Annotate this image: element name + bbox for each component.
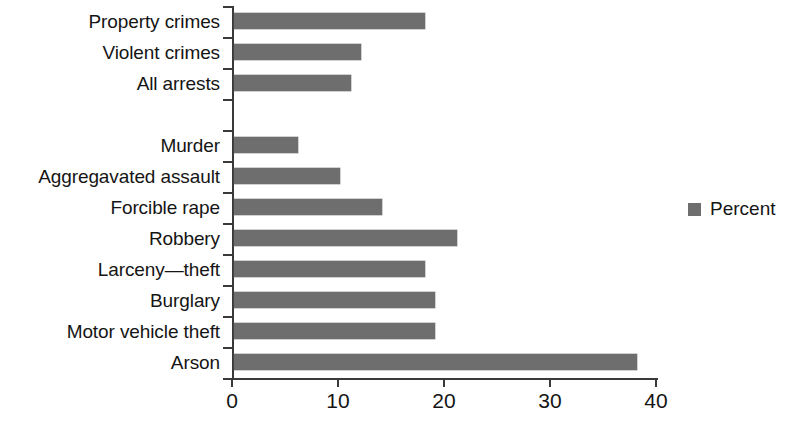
bar-all-arrests <box>234 75 351 91</box>
bar-property-crimes <box>234 13 425 29</box>
legend-swatch-icon <box>688 203 701 216</box>
category-label: Arson <box>171 347 220 378</box>
category-label: All arrests <box>137 68 220 99</box>
bar-burglary <box>234 292 435 308</box>
bar-larceny-theft <box>234 261 425 277</box>
x-axis-tick-label: 0 <box>226 389 238 413</box>
category-label: Aggregavated assault <box>38 161 220 192</box>
x-axis-line <box>232 378 658 380</box>
bar-violent-crimes <box>234 44 361 60</box>
category-label: Burglary <box>150 285 220 316</box>
category-label: Larceny—theft <box>98 254 220 285</box>
x-axis-tick-label: 10 <box>326 389 349 413</box>
category-label: Violent crimes <box>102 37 220 68</box>
bar-forcible-rape <box>234 199 382 215</box>
x-axis-tick <box>231 378 233 387</box>
bar-aggregavated-assault <box>234 168 340 184</box>
x-axis-tick <box>337 378 339 387</box>
bars-container <box>234 6 794 378</box>
x-axis-tick <box>443 378 445 387</box>
bar-chart: Property crimes Violent crimes All arres… <box>0 0 795 428</box>
category-labels: Property crimes Violent crimes All arres… <box>0 6 226 378</box>
legend-label: Percent <box>710 198 775 220</box>
category-label: Motor vehicle theft <box>67 316 220 347</box>
bar-robbery <box>234 230 457 246</box>
category-label: Forcible rape <box>110 192 220 223</box>
x-axis-tick <box>549 378 551 387</box>
x-axis-tick-label: 30 <box>538 389 561 413</box>
x-axis-tick-label: 20 <box>432 389 455 413</box>
bar-arson <box>234 354 637 370</box>
category-label: Robbery <box>149 223 220 254</box>
category-label: Property crimes <box>88 6 220 37</box>
bar-motor-vehicle-theft <box>234 323 435 339</box>
x-axis-tick-label: 40 <box>644 389 667 413</box>
x-axis-tick <box>655 378 657 387</box>
category-label: Murder <box>160 130 220 161</box>
legend: Percent <box>688 198 775 220</box>
bar-murder <box>234 137 298 153</box>
